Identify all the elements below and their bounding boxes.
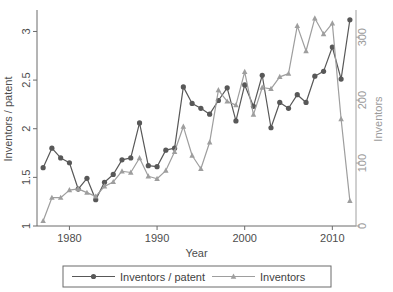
data-point-1-23 xyxy=(242,69,248,74)
data-point-1-30 xyxy=(303,48,309,53)
data-point-0-26 xyxy=(268,125,273,130)
data-point-0-18 xyxy=(198,106,203,111)
y-tick-label-left: 1 xyxy=(20,223,32,229)
data-point-0-28 xyxy=(286,106,291,111)
y-axis-right-title: Inventors xyxy=(372,96,384,142)
data-point-1-12 xyxy=(146,173,152,178)
data-point-1-24 xyxy=(251,112,257,117)
x-tick-label: 2010 xyxy=(320,232,344,244)
y-tick-label-right: 100 xyxy=(356,154,368,172)
data-point-1-34 xyxy=(338,116,344,121)
y-tick-label-left: 3 xyxy=(20,28,32,34)
data-point-0-17 xyxy=(190,101,195,106)
data-point-0-31 xyxy=(312,74,317,79)
data-point-0-10 xyxy=(128,155,133,160)
y-tick-label-left: 2 xyxy=(20,126,32,132)
data-point-0-32 xyxy=(321,69,326,74)
data-point-0-5 xyxy=(84,176,89,181)
line-chart: 11.522.5301002003001980199020002010Inven… xyxy=(0,0,393,292)
data-point-1-9 xyxy=(119,168,125,173)
data-point-0-25 xyxy=(260,73,265,78)
y-tick-label-right: 300 xyxy=(356,28,368,46)
data-point-0-29 xyxy=(295,92,300,97)
data-point-0-34 xyxy=(339,77,344,82)
data-point-1-31 xyxy=(312,15,318,20)
data-point-1-35 xyxy=(347,198,353,203)
data-point-0-11 xyxy=(137,120,142,125)
data-point-0-8 xyxy=(111,172,116,177)
data-point-1-0 xyxy=(40,218,46,223)
chart-figure: 11.522.5301002003001980199020002010Inven… xyxy=(0,0,393,292)
data-point-0-27 xyxy=(277,100,282,105)
legend-label-1: Inventors xyxy=(260,271,306,283)
data-point-1-17 xyxy=(189,153,195,158)
x-axis-title: Year xyxy=(185,247,208,259)
data-point-0-30 xyxy=(303,100,308,105)
data-point-1-16 xyxy=(181,124,187,129)
data-point-0-22 xyxy=(233,118,238,123)
data-point-1-33 xyxy=(330,20,336,25)
data-point-1-29 xyxy=(295,23,301,28)
legend-label-0: Inventors / patent xyxy=(120,271,205,283)
data-point-0-14 xyxy=(163,148,168,153)
x-tick-label: 1980 xyxy=(57,232,81,244)
y-tick-label-left: 2.5 xyxy=(20,72,32,87)
data-point-0-35 xyxy=(347,17,352,22)
data-point-0-1 xyxy=(49,146,54,151)
y-tick-label-left: 1.5 xyxy=(20,170,32,185)
data-point-1-19 xyxy=(207,139,213,144)
data-point-0-21 xyxy=(225,85,230,90)
x-tick-label: 1990 xyxy=(145,232,169,244)
data-point-0-12 xyxy=(146,163,151,168)
data-point-1-20 xyxy=(216,87,222,92)
y-tick-label-right: 0 xyxy=(356,223,368,229)
legend-marker-0 xyxy=(91,274,96,279)
data-point-0-0 xyxy=(41,165,46,170)
plot-area: 11.522.5301002003001980199020002010Inven… xyxy=(2,10,384,287)
data-point-1-28 xyxy=(286,71,292,76)
data-point-1-11 xyxy=(137,155,143,160)
data-point-1-14 xyxy=(163,168,169,173)
y-tick-label-right: 200 xyxy=(356,91,368,109)
x-tick-label: 2000 xyxy=(232,232,256,244)
data-point-0-19 xyxy=(207,112,212,117)
series-line-0 xyxy=(43,20,350,200)
y-axis-left-title: Inventors / patent xyxy=(2,77,14,162)
data-point-0-16 xyxy=(181,84,186,89)
data-point-0-3 xyxy=(67,160,72,165)
data-point-0-13 xyxy=(154,164,159,169)
data-point-0-2 xyxy=(58,155,63,160)
series-line-1 xyxy=(43,18,350,221)
data-point-0-9 xyxy=(119,157,124,162)
